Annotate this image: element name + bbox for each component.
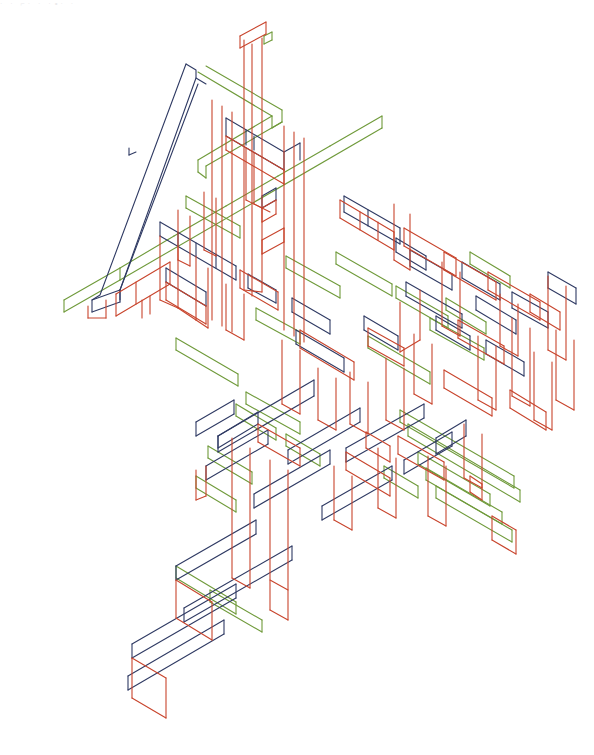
axonometric-wireframe-drawing: [0, 0, 594, 755]
drawing-background: [0, 0, 594, 755]
drawing-canvas: · · ⌐· · ·∘· ·: [0, 0, 594, 755]
